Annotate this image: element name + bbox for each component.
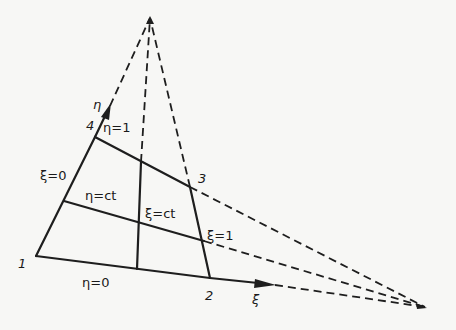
dashed-xi-ct-extension <box>141 18 150 162</box>
line-eta-ct <box>64 201 204 241</box>
dashed-edge-1-4-extension <box>110 18 150 106</box>
dashed-edge-2-3-extension <box>150 18 190 187</box>
xi-axis-label: ξ <box>251 292 260 307</box>
label-xi-1: ξ=1 <box>207 228 233 243</box>
isoparametric-element-diagram: 1 2 3 4 η ξ ξ=0 η=1 η=ct ξ=ct ξ=1 η=0 <box>0 0 456 330</box>
label-xi-0: ξ=0 <box>40 168 66 183</box>
node-label-4: 4 <box>86 118 94 133</box>
node-label-2: 2 <box>205 288 213 303</box>
label-eta-0: η=0 <box>82 275 109 290</box>
eta-axis-label: η <box>93 97 101 112</box>
dashed-eta-ct-extension <box>204 241 425 307</box>
top-vanishing-point-marker <box>146 16 154 24</box>
label-xi-ct: ξ=ct <box>145 206 175 221</box>
label-eta-ct: η=ct <box>85 188 116 203</box>
label-eta-1: η=1 <box>103 120 130 135</box>
line-xi-ct <box>137 162 141 269</box>
node-label-1: 1 <box>18 256 26 271</box>
eta-axis-arrowhead <box>101 103 111 120</box>
right-vanishing-point-marker <box>416 303 427 309</box>
edge-1-2-eta-0 <box>36 256 210 278</box>
xi-axis-line <box>210 278 258 283</box>
xi-axis-arrowhead <box>254 279 276 288</box>
node-label-3: 3 <box>198 171 206 186</box>
